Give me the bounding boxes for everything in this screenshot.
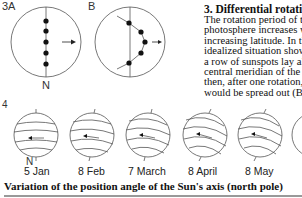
arrow-b xyxy=(152,40,162,44)
sun-diagram-a xyxy=(11,7,81,77)
globe-8-april xyxy=(183,109,227,161)
date-label: 5 Jan xyxy=(24,165,50,177)
globe-8-may xyxy=(238,109,282,161)
date-label: 8 April xyxy=(188,165,217,177)
figure-caption: Variation of the position angle of the S… xyxy=(4,180,283,192)
globe-7-march xyxy=(126,109,170,161)
figure-label-4: 4 xyxy=(2,99,8,110)
figure-label-3a: 3A xyxy=(2,0,15,12)
figure-label-b: B xyxy=(88,0,95,12)
body-line: would be spread out (B). xyxy=(204,88,302,98)
globe-5-jan xyxy=(14,109,58,161)
globe-8-feb xyxy=(70,109,114,161)
section-body: The rotation period of the photosphere i… xyxy=(204,15,302,98)
body-line: idealized situation shown l xyxy=(204,46,302,56)
globe-partial xyxy=(292,113,302,157)
north-label-3: N xyxy=(42,79,50,91)
date-label: 8 May xyxy=(245,165,274,177)
date-label: 7 March xyxy=(128,165,166,177)
divider xyxy=(4,195,302,197)
date-label: 8 Feb xyxy=(78,165,105,177)
